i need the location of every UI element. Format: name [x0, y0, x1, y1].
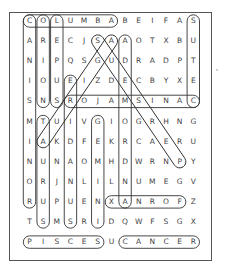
grid-letter[interactable]: M	[50, 215, 64, 229]
grid-letter[interactable]: T	[145, 34, 159, 48]
grid-letter[interactable]: C	[159, 235, 173, 249]
grid-letter[interactable]: G	[91, 115, 105, 129]
grid-letter[interactable]: B	[173, 34, 187, 48]
grid-letter[interactable]: U	[104, 54, 118, 68]
grid-letter[interactable]: D	[104, 74, 118, 88]
grid-letter[interactable]: C	[63, 235, 77, 249]
grid-letter[interactable]: F	[173, 195, 187, 209]
grid-letter[interactable]: O	[77, 155, 91, 169]
grid-letter[interactable]: I	[145, 14, 159, 28]
grid-letter[interactable]: S	[36, 215, 50, 229]
grid-letter[interactable]: E	[91, 135, 105, 149]
grid-letter[interactable]: L	[50, 14, 64, 28]
grid-letter[interactable]: A	[104, 34, 118, 48]
grid-letter[interactable]: X	[173, 74, 187, 88]
grid-letter[interactable]: I	[36, 235, 50, 249]
grid-letter[interactable]: G	[132, 115, 146, 129]
grid-letter[interactable]: E	[159, 175, 173, 189]
grid-letter[interactable]: O	[77, 94, 91, 108]
grid-letter[interactable]: R	[186, 235, 200, 249]
grid-letter[interactable]: T	[36, 115, 50, 129]
grid-letter[interactable]: N	[50, 155, 64, 169]
grid-letter[interactable]: I	[23, 135, 37, 149]
grid-letter[interactable]: P	[23, 235, 37, 249]
grid-letter[interactable]: D	[118, 54, 132, 68]
grid-letter[interactable]: A	[145, 135, 159, 149]
grid-letter[interactable]: F	[145, 215, 159, 229]
grid-letter[interactable]: U	[104, 235, 118, 249]
grid-letter[interactable]: I	[36, 54, 50, 68]
grid-letter[interactable]: S	[77, 54, 91, 68]
grid-letter[interactable]: Q	[118, 215, 132, 229]
grid-letter[interactable]: I	[63, 115, 77, 129]
grid-letter[interactable]: C	[63, 34, 77, 48]
grid-letter[interactable]: S	[159, 215, 173, 229]
grid-letter[interactable]: N	[159, 94, 173, 108]
grid-letter[interactable]: V	[77, 115, 91, 129]
grid-letter[interactable]: E	[173, 235, 187, 249]
grid-letter[interactable]: G	[186, 115, 200, 129]
grid-letter[interactable]: A	[173, 14, 187, 28]
grid-letter[interactable]: D	[63, 135, 77, 149]
grid-letter[interactable]: P	[173, 155, 187, 169]
grid-letter[interactable]: B	[118, 14, 132, 28]
grid-letter[interactable]: O	[159, 195, 173, 209]
grid-letter[interactable]: A	[118, 34, 132, 48]
grid-letter[interactable]: E	[77, 235, 91, 249]
grid-letter[interactable]: I	[91, 175, 105, 189]
grid-letter[interactable]: U	[36, 155, 50, 169]
grid-letter[interactable]: S	[63, 215, 77, 229]
grid-letter[interactable]: D	[104, 215, 118, 229]
grid-letter[interactable]: A	[23, 34, 37, 48]
grid-letter[interactable]: M	[118, 94, 132, 108]
grid-letter[interactable]: K	[104, 135, 118, 149]
grid-letter[interactable]: B	[145, 74, 159, 88]
grid-letter[interactable]: V	[186, 175, 200, 189]
grid-letter[interactable]: Y	[186, 155, 200, 169]
grid-letter[interactable]: X	[159, 34, 173, 48]
grid-letter[interactable]: T	[23, 215, 37, 229]
grid-letter[interactable]: A	[36, 135, 50, 149]
grid-letter[interactable]: N	[23, 54, 37, 68]
grid-letter[interactable]: N	[145, 235, 159, 249]
grid-letter[interactable]: F	[77, 135, 91, 149]
grid-letter[interactable]: G	[173, 175, 187, 189]
grid-letter[interactable]: N	[132, 195, 146, 209]
grid-letter[interactable]: G	[91, 54, 105, 68]
grid-letter[interactable]: Q	[63, 54, 77, 68]
grid-letter[interactable]: D	[159, 54, 173, 68]
grid-letter[interactable]: E	[77, 195, 91, 209]
grid-letter[interactable]: O	[132, 34, 146, 48]
grid-letter[interactable]: E	[118, 74, 132, 88]
grid-letter[interactable]: O	[36, 14, 50, 28]
grid-letter[interactable]: S	[23, 94, 37, 108]
grid-letter[interactable]: C	[132, 74, 146, 88]
grid-letter[interactable]: D	[118, 155, 132, 169]
grid-letter[interactable]: L	[104, 175, 118, 189]
grid-letter[interactable]: S	[50, 235, 64, 249]
grid-letter[interactable]: S	[91, 235, 105, 249]
grid-letter[interactable]: S	[91, 34, 105, 48]
grid-letter[interactable]: E	[132, 14, 146, 28]
grid-letter[interactable]: A	[173, 94, 187, 108]
grid-letter[interactable]: I	[104, 115, 118, 129]
grid-letter[interactable]: E	[186, 74, 200, 88]
grid-letter[interactable]: R	[145, 115, 159, 129]
grid-letter[interactable]: O	[118, 115, 132, 129]
grid-letter[interactable]: W	[132, 215, 146, 229]
grid-letter[interactable]: N	[63, 175, 77, 189]
grid-letter[interactable]: S	[186, 14, 200, 28]
grid-letter[interactable]: Y	[159, 74, 173, 88]
grid-letter[interactable]: R	[36, 34, 50, 48]
grid-letter[interactable]: J	[77, 34, 91, 48]
grid-letter[interactable]: R	[173, 135, 187, 149]
grid-letter[interactable]: R	[118, 135, 132, 149]
grid-letter[interactable]: N	[118, 175, 132, 189]
grid-letter[interactable]: C	[118, 235, 132, 249]
grid-letter[interactable]: W	[132, 155, 146, 169]
grid-letter[interactable]: I	[77, 74, 91, 88]
grid-letter[interactable]: U	[36, 195, 50, 209]
grid-letter[interactable]: X	[186, 215, 200, 229]
grid-letter[interactable]: O	[23, 175, 37, 189]
grid-letter[interactable]: U	[50, 115, 64, 129]
